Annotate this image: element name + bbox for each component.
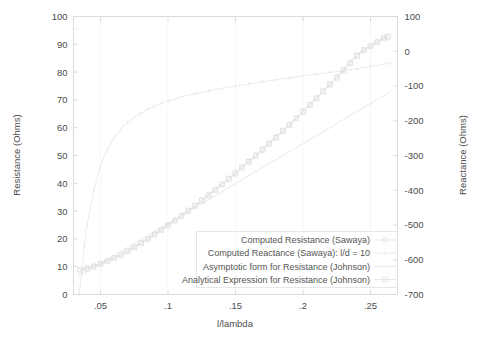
legend-entry-label: Analytical Expression for Resistance (Jo… (182, 275, 370, 285)
y-left-tick-label: 20 (57, 233, 68, 244)
y-right-tick-label: -600 (405, 254, 424, 265)
legend-entry-label: Computed Resistance (Sawaya) (241, 235, 370, 245)
x-tick-label: .15 (229, 300, 242, 311)
y-right-tick-label: -100 (405, 80, 424, 91)
y-axis-right-title: Reactance (Ohms) (457, 115, 468, 195)
y-right-tick-label: -400 (405, 185, 424, 196)
y-right-tick-label: -500 (405, 219, 424, 230)
y-axis-left-title: Resistance (Ohms) (11, 114, 22, 195)
y-left-tick-label: 0 (62, 289, 67, 300)
y-left-tick-label: 70 (57, 94, 68, 105)
y-right-tick-label: -300 (405, 150, 424, 161)
x-tick-label: .25 (364, 300, 377, 311)
y-right-tick-label: 0 (405, 46, 410, 57)
y-left-tick-label: 10 (57, 261, 68, 272)
legend-entry[interactable]: Asymptotic form for Resistance (Johnson) (203, 262, 396, 272)
y-right-tick-label: -200 (405, 115, 424, 126)
y-left-tick-label: 50 (57, 150, 68, 161)
y-left-tick-label: 40 (57, 178, 68, 189)
y-left-tick-label: 100 (52, 11, 68, 22)
y-right-tick-label: -700 (405, 289, 424, 300)
legend-entry-label: Asymptotic form for Resistance (Johnson) (203, 262, 370, 272)
x-tick-label: .2 (299, 300, 307, 311)
y-left-tick-label: 60 (57, 122, 68, 133)
x-tick-label: .05 (94, 300, 107, 311)
y-left-tick-label: 30 (57, 206, 68, 217)
legend-entry[interactable]: Computed Reactance (Sawaya): l/d = 10 (208, 248, 396, 258)
legend-entry-label: Computed Reactance (Sawaya): l/d = 10 (208, 248, 370, 258)
x-axis-title: l/lambda (217, 318, 254, 329)
resistance-reactance-chart: 0102030405060708090100 -700-600-500-400-… (0, 0, 484, 342)
x-tick-label: .1 (164, 300, 172, 311)
y-left-tick-label: 90 (57, 39, 68, 50)
y-right-tick-label: 100 (405, 11, 421, 22)
y-left-tick-label: 80 (57, 67, 68, 78)
chart-container: 0102030405060708090100 -700-600-500-400-… (0, 0, 484, 342)
legend-entry[interactable]: Analytical Expression for Resistance (Jo… (182, 275, 396, 285)
